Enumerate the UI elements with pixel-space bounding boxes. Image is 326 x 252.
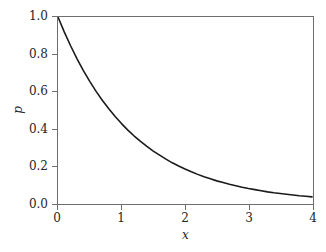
x-tick-label: 0 [37, 211, 77, 225]
y-tick-label: 1.0 [8, 10, 48, 22]
y-tick [52, 166, 57, 167]
y-tick-label: 0.4 [8, 123, 48, 135]
curve-svg [58, 17, 313, 204]
y-tick-label: 0.6 [8, 85, 48, 97]
y-tick [52, 54, 57, 55]
data-series-line [58, 17, 312, 197]
y-tick-label: 0.8 [8, 48, 48, 60]
x-tick-label: 3 [229, 211, 269, 225]
plot-area [57, 16, 314, 205]
x-tick [121, 205, 122, 210]
y-axis-title: p [11, 106, 25, 114]
y-tick-label: 0.2 [8, 160, 48, 172]
x-tick-label: 2 [165, 211, 205, 225]
x-tick [185, 205, 186, 210]
x-tick-label: 1 [101, 211, 141, 225]
x-tick [313, 205, 314, 210]
y-tick-label: 0.0 [8, 198, 48, 210]
x-tick [249, 205, 250, 210]
chart-figure: 01234 0.00.20.40.60.81.0 x p [0, 0, 326, 252]
y-tick [52, 91, 57, 92]
y-tick [52, 16, 57, 17]
x-axis-title: x [57, 228, 314, 242]
y-tick [52, 129, 57, 130]
x-tick-label: 4 [293, 211, 326, 225]
y-tick [52, 204, 57, 205]
x-tick [57, 205, 58, 210]
